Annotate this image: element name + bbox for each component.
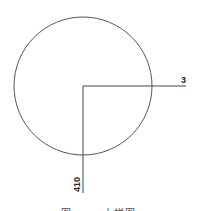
label-3: 3 xyxy=(181,75,186,85)
figure-caption: 图 —— 大样图 xyxy=(0,205,197,211)
label-410: 410 xyxy=(72,177,82,192)
circle-detail-diagram: 3 410 xyxy=(0,0,197,211)
